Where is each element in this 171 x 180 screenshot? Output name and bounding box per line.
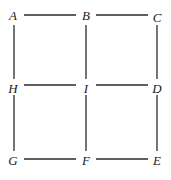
node-label-h: H	[7, 81, 18, 96]
node-label-a: A	[8, 8, 17, 23]
node-label-c: C	[153, 10, 162, 25]
node-label-g: G	[8, 153, 18, 168]
node-label-e: E	[152, 153, 161, 168]
node-label-i: I	[83, 81, 89, 96]
node-label-d: D	[151, 81, 162, 96]
nodes: ABCHIDGFE	[7, 8, 162, 168]
grid-graph-diagram: ABCHIDGFE	[0, 0, 171, 180]
node-label-f: F	[81, 153, 91, 168]
node-label-b: B	[82, 8, 90, 23]
